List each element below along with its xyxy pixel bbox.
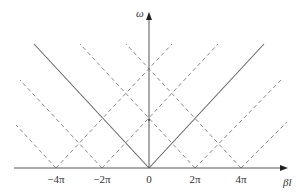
x-tick-label-4pi: 4π <box>235 173 246 185</box>
harmonic-2pi-left <box>80 44 195 168</box>
harmonic-minus2pi-left <box>20 80 102 168</box>
harmonic-4pi-left <box>126 44 241 168</box>
x-tick-label-2pi: 2π <box>189 173 200 185</box>
harmonic-minus4pi-left <box>16 125 56 168</box>
intersection-dot <box>148 119 150 121</box>
harmonic-minus4pi-right <box>56 44 172 168</box>
y-axis-arrow-icon <box>146 12 152 20</box>
y-axis-label: ω <box>136 7 144 19</box>
x-tick-label-zero: 0 <box>146 173 152 185</box>
harmonic-minus2pi-right <box>102 44 218 168</box>
fundamental-left <box>34 44 149 168</box>
x-tick-label-minus2pi: −2π <box>93 173 110 185</box>
fundamental-right <box>149 44 264 168</box>
harmonic-4pi-right <box>241 122 287 168</box>
axes <box>14 16 284 168</box>
harmonic-2pi-right <box>195 79 282 168</box>
x-axis-arrow-icon <box>280 165 288 171</box>
dispersion-diagram <box>0 0 308 194</box>
x-tick-label-minus4pi: −4π <box>47 173 64 185</box>
x-axis-label: βl <box>283 176 292 188</box>
